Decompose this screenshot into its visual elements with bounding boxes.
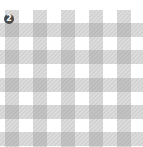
stripe-intersection bbox=[117, 23, 131, 37]
stripe-intersection bbox=[61, 132, 75, 146]
stripe-intersection bbox=[117, 78, 131, 92]
stripe-intersection bbox=[117, 50, 131, 64]
step-number-badge: 2 bbox=[4, 14, 14, 24]
stripe-intersection bbox=[5, 23, 19, 37]
stripe-intersection bbox=[61, 105, 75, 119]
stripe-intersection bbox=[61, 78, 75, 92]
stripe-intersection bbox=[33, 132, 47, 146]
badge-number: 2 bbox=[6, 14, 12, 23]
stripe-intersection bbox=[33, 50, 47, 64]
stripe-intersection bbox=[5, 132, 19, 146]
stripe-intersection bbox=[89, 105, 103, 119]
stripe-intersection bbox=[33, 78, 47, 92]
stripe-intersection bbox=[89, 132, 103, 146]
stripe-intersection bbox=[117, 132, 131, 146]
stripe-intersection bbox=[61, 50, 75, 64]
stripe-intersection bbox=[89, 23, 103, 37]
stripe-intersection bbox=[33, 105, 47, 119]
stripe-intersection bbox=[5, 78, 19, 92]
gingham-pattern bbox=[0, 0, 143, 147]
swatch-canvas: 2 bbox=[0, 0, 143, 147]
stripe-intersection bbox=[89, 78, 103, 92]
stripe-intersection bbox=[61, 23, 75, 37]
stripe-intersection bbox=[89, 50, 103, 64]
stripe-intersection bbox=[33, 23, 47, 37]
stripe-intersection bbox=[5, 105, 19, 119]
stripe-intersection bbox=[5, 50, 19, 64]
stripe-intersection bbox=[117, 105, 131, 119]
